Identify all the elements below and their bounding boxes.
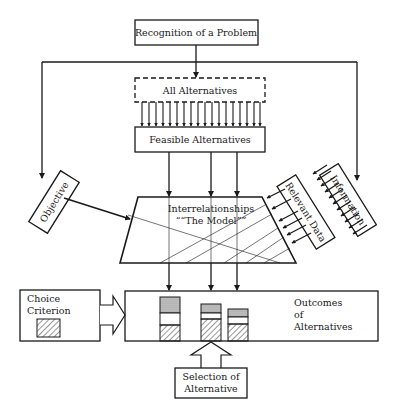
model-label-line2: ““The Model”” [176,215,247,226]
objective-box: Objective [29,171,79,234]
outcomes-label-line3: Alternatives [293,321,353,332]
feasible-alternatives-label: Feasible Alternatives [149,134,251,145]
model-label-line1: Interrelationships [168,203,255,214]
selection-to-outcomes-arrow [191,342,231,368]
outcomes-label-line1: Outcomes [294,297,342,308]
outcome-bars [160,297,248,341]
choice-label-line2: Criterion [27,305,71,316]
outcomes-label-line2: of [294,309,305,320]
relevant-data-label: Relevant Data [283,180,329,244]
all-alternatives-label: All Alternatives [162,85,237,96]
selection-label-line2: Alternative [183,383,238,394]
recognition-label: Recognition of a Problem [135,27,257,38]
alternatives-filter-arrows [142,102,260,126]
decision-model-diagram: Objective Information Relevant Data [0,0,398,416]
choice-to-outcomes-arrow [100,296,125,334]
selection-label-line1: Selection of [182,371,241,382]
criterion-hatch-swatch [37,319,60,337]
choice-label-line1: Choice [27,293,60,304]
